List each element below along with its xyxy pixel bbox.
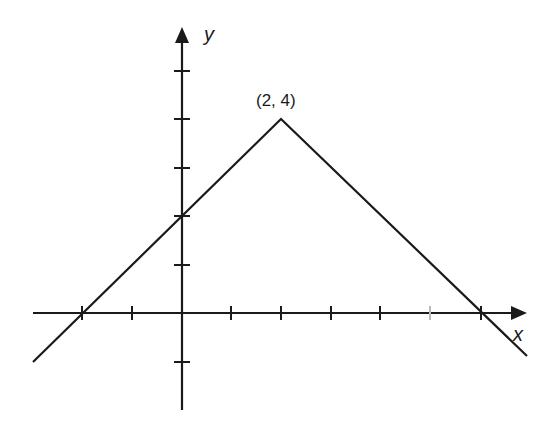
y-axis-label: y (202, 23, 215, 45)
peak-point-label: (2, 4) (256, 91, 296, 110)
function-graph (33, 119, 527, 362)
y-axis (175, 27, 189, 410)
x-axis-arrow-icon (511, 306, 527, 320)
graph-plot: y x (2, 4) (0, 0, 560, 431)
y-axis-arrow-icon (175, 27, 189, 43)
x-axis-label: x (512, 323, 524, 345)
